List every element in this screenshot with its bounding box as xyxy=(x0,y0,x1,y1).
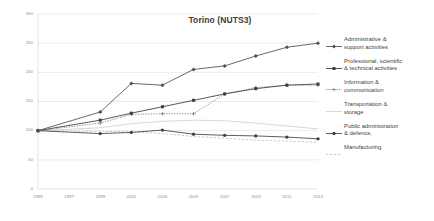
legend-item-label: Manufacturing xyxy=(344,144,381,152)
y-tick-label: 200 xyxy=(11,70,33,74)
data-point xyxy=(192,132,195,135)
data-point xyxy=(316,137,319,140)
chart-root: 050100150200250300 199519971999200120032… xyxy=(0,0,434,221)
x-tick-label: 2011 xyxy=(272,195,302,199)
x-tick-label: 2009 xyxy=(241,195,271,199)
legend-item-label: Information & communication xyxy=(344,79,384,94)
legend-item-0[interactable]: Administrative & support activities xyxy=(326,36,434,51)
data-point xyxy=(316,41,320,45)
legend-item-label: Professional, scientific & technical act… xyxy=(344,58,402,73)
plot-svg xyxy=(0,0,330,221)
series-4 xyxy=(36,128,319,140)
plus-line-marker-icon xyxy=(326,80,342,89)
data-point xyxy=(192,99,195,102)
x-tick-label: 2007 xyxy=(210,195,240,199)
series-1 xyxy=(37,83,320,133)
y-tick-label: 300 xyxy=(11,12,33,16)
dashed-line-marker-icon xyxy=(326,145,342,154)
chart-legend: Administrative & support activitiesProfe… xyxy=(326,36,434,161)
data-point xyxy=(223,134,226,137)
legend-item-1[interactable]: Professional, scientific & technical act… xyxy=(326,58,434,73)
x-tick-label: 1999 xyxy=(85,195,115,199)
data-point xyxy=(285,45,289,49)
x-tick-label: 2013 xyxy=(303,195,333,199)
x-tick-label: 2001 xyxy=(116,195,146,199)
legend-item-5[interactable]: Manufacturing xyxy=(326,144,434,154)
legend-item-label: Public administration & defence, xyxy=(344,123,398,138)
series-line xyxy=(38,43,318,131)
legend-item-3[interactable]: Transportation & storage xyxy=(326,101,434,116)
data-point xyxy=(160,83,164,87)
data-point xyxy=(285,84,288,87)
chart-title: Torino (NUTS3) xyxy=(150,15,290,25)
data-point xyxy=(332,88,336,92)
data-point xyxy=(99,119,102,122)
data-point xyxy=(99,132,102,135)
y-tick-label: 50 xyxy=(11,158,33,162)
diamond-line-marker-icon xyxy=(326,37,342,46)
series-layer xyxy=(36,41,320,142)
y-tick-label: 150 xyxy=(11,99,33,103)
legend-item-4[interactable]: Public administration & defence, xyxy=(326,123,434,138)
square-line-marker-icon xyxy=(326,59,342,68)
data-point xyxy=(254,134,257,137)
legend-item-label: Transportation & storage xyxy=(344,101,387,116)
series-line xyxy=(38,84,318,131)
data-point xyxy=(223,92,226,95)
data-point xyxy=(333,67,336,70)
x-tick-label: 1995 xyxy=(23,195,53,199)
data-point xyxy=(161,112,165,116)
y-tick-label: 250 xyxy=(11,41,33,45)
x-tick-label: 2005 xyxy=(179,195,209,199)
data-point xyxy=(161,128,164,131)
data-point xyxy=(98,121,102,125)
x-tick-label: 1997 xyxy=(54,195,84,199)
y-tick-label: 100 xyxy=(11,128,33,132)
data-point xyxy=(130,112,133,115)
data-point xyxy=(192,67,196,71)
data-point xyxy=(223,64,227,68)
series-0 xyxy=(36,41,320,133)
data-point xyxy=(254,87,257,90)
x-tick-label: 2003 xyxy=(147,195,177,199)
data-point xyxy=(285,135,288,138)
data-point xyxy=(332,132,335,135)
data-point xyxy=(254,54,258,58)
legend-item-2[interactable]: Information & communication xyxy=(326,79,434,94)
data-point xyxy=(332,45,336,49)
plot-area: 050100150200250300 199519971999200120032… xyxy=(0,0,330,221)
legend-item-label: Administrative & support activities xyxy=(344,36,388,51)
gridlines xyxy=(38,14,318,189)
data-point xyxy=(130,131,133,134)
y-tick-label: 0 xyxy=(11,187,33,191)
circle-line-marker-icon xyxy=(326,124,342,133)
data-point xyxy=(317,83,320,86)
plain-line-marker-icon xyxy=(326,102,342,111)
data-point xyxy=(161,105,164,108)
